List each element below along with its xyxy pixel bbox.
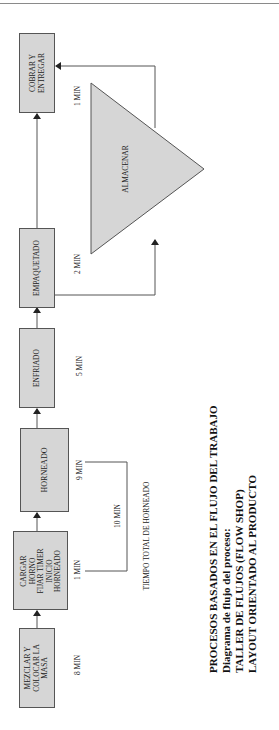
time-cargar: 1 MIN (73, 560, 82, 580)
step-empaquetado-box: EMPAQUETADO (19, 228, 55, 308)
step-mezclar-box: MEZCLAR Y COLOCAR LA MASA (19, 628, 55, 708)
title-line-4: LAYOUT ORIENTADO AL PRODUCTO (246, 475, 259, 673)
title-line-3: TALLER DE FLUJOS (FLOW SHOP) (233, 489, 246, 673)
storage-label: ALMACENAR (121, 145, 130, 193)
step-horneado-box: HORNEADO (20, 428, 69, 512)
step-mezclar-label: MEZCLAR Y COLOCAR LA MASA (24, 644, 50, 692)
time-cobrar: 1 MIN (73, 86, 82, 106)
storage-triangle (91, 83, 204, 254)
bracket-caption: TIEMPO TOTAL DE HORNEADO (142, 481, 151, 590)
time-horneado: 9 MIN (75, 460, 84, 480)
step-cargar-label: CARGAR HORNO FIJAR TIMER INICIO HORNEADO (19, 548, 62, 593)
step-empaquetado-label: EMPAQUETADO (33, 240, 42, 296)
step-enfriado-box: ENFRIADO (19, 328, 55, 408)
time-mezclar: 8 MIN (73, 655, 82, 675)
step-cargar-box: CARGAR HORNO FIJAR TIMER INICIO HORNEADO (13, 531, 68, 610)
title-line-2: Diagrama de flujo del proceso: (220, 528, 233, 673)
bracket-value: 10 MIN (113, 504, 122, 528)
time-empaquetado: 2 MIN (73, 254, 82, 274)
step-horneado-label: HORNEADO (40, 448, 49, 493)
time-enfriado: 5 MIN (75, 356, 84, 376)
step-enfriado-label: ENFRIADO (33, 349, 42, 387)
title-line-1: PROCESOS BASADOS EN EL FLUJO DEL TRABAJO (207, 405, 220, 673)
step-cobrar-box: COBRAR Y ENTREGAR (19, 33, 55, 113)
step-cobrar-label: COBRAR Y ENTREGAR (29, 53, 46, 93)
